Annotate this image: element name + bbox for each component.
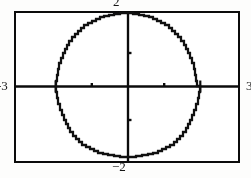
x-min-label: -3	[0, 79, 8, 92]
y-max-label: 2	[113, 0, 120, 8]
figure-wrapper: 2 −2 -3 3	[0, 0, 251, 178]
calculator-viewing-window	[14, 11, 240, 163]
calculator-graph-screenshot: 2 −2 -3 3	[0, 0, 251, 178]
y-min-label: −2	[112, 160, 126, 173]
x-max-label: 3	[246, 79, 251, 92]
